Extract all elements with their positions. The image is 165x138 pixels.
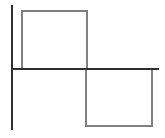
square-wave-plot (0, 0, 165, 138)
figure-root (0, 0, 165, 138)
